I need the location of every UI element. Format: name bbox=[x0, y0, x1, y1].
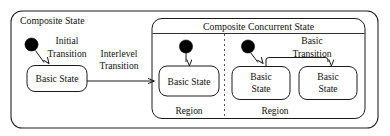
basic-state-label-region1: Basic State bbox=[168, 76, 211, 87]
initial-transition-label-line2: Transition bbox=[47, 48, 86, 59]
basic-state-label-region2-a-line1: Basic bbox=[250, 71, 271, 82]
initial-state-dot-outer bbox=[25, 38, 38, 51]
interlevel-transition-label-line1: Interlevel bbox=[101, 48, 138, 59]
basic-transition-label-line1: Basic bbox=[301, 35, 322, 46]
composite-concurrent-state-label: Composite Concurrent State bbox=[203, 21, 315, 32]
basic-state-label-region2-a-line2: State bbox=[251, 83, 270, 94]
region-label-right: Region bbox=[261, 106, 288, 116]
initial-state-dot-region1 bbox=[179, 40, 192, 53]
uml-statechart-diagram: Composite State Composite Concurrent Sta… bbox=[0, 0, 390, 136]
basic-state-label-region2-b-line1: Basic bbox=[317, 71, 338, 82]
region-label-left: Region bbox=[175, 106, 202, 116]
initial-state-dot-region2 bbox=[241, 40, 254, 53]
basic-state-label-region2-b-line2: State bbox=[318, 83, 337, 94]
diagram-canvas: Composite State Composite Concurrent Sta… bbox=[0, 0, 390, 136]
initial-transition-label-line1: Initial bbox=[56, 35, 79, 46]
composite-state-label: Composite State bbox=[20, 15, 85, 26]
interlevel-transition-label-line2: Transition bbox=[99, 60, 138, 71]
basic-transition-label-line2: Transition bbox=[292, 48, 331, 59]
basic-state-label-outer: Basic State bbox=[36, 73, 79, 84]
